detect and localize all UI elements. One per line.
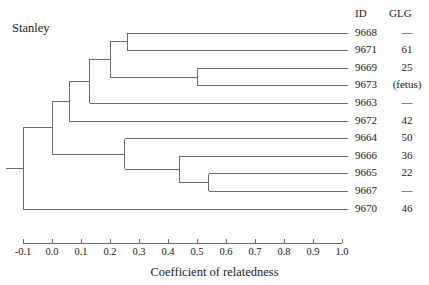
leaf-id-9667: 9667 bbox=[355, 185, 389, 196]
leaf-glg-9664: 50 bbox=[389, 132, 425, 143]
axis-tick-label-4: 0.3 bbox=[124, 247, 154, 258]
leaf-id-9666: 9666 bbox=[355, 150, 389, 161]
leaf-id-9673: 9673 bbox=[355, 79, 389, 90]
axis-tick-label-7: 0.6 bbox=[211, 247, 241, 258]
axis-tick-label-2: 0.1 bbox=[66, 247, 96, 258]
leaf-glg-9672: 42 bbox=[389, 115, 425, 126]
leaf-id-9663: 9663 bbox=[355, 97, 389, 108]
axis-tick-label-5: 0.4 bbox=[153, 247, 183, 258]
axis-tick-label-3: 0.2 bbox=[95, 247, 125, 258]
leaf-glg-9673: (fetus) bbox=[389, 79, 425, 90]
leaf-id-9672: 9672 bbox=[355, 115, 389, 126]
leaf-glg-9666: 36 bbox=[389, 150, 425, 161]
leaf-glg-9663: — bbox=[389, 97, 425, 108]
axis-tick-label-8: 0.7 bbox=[240, 247, 270, 258]
axis-tick-label-10: 0.9 bbox=[298, 247, 328, 258]
leaf-glg-9668: — bbox=[389, 27, 425, 38]
leaf-glg-9669: 25 bbox=[389, 62, 425, 73]
axis-tick-label-6: 0.5 bbox=[182, 247, 212, 258]
leaf-id-9669: 9669 bbox=[355, 62, 389, 73]
axis-tick-label-9: 0.8 bbox=[269, 247, 299, 258]
leaf-id-9671: 9671 bbox=[355, 44, 389, 55]
axis-tick-label-11: 1.0 bbox=[327, 247, 357, 258]
axis-tick-label-1: 0.0 bbox=[37, 247, 67, 258]
axis-tick-label-0: -0.1 bbox=[8, 247, 38, 258]
leaf-glg-9665: 22 bbox=[389, 167, 425, 178]
leaf-glg-9667: — bbox=[389, 185, 425, 196]
dendrogram-figure: Stanley ID GLG 9668—9671619669259673(fet… bbox=[0, 0, 429, 285]
axis-title: Coefficient of relatedness bbox=[0, 266, 429, 279]
leaf-id-9670: 9670 bbox=[355, 203, 389, 214]
leaf-glg-9670: 46 bbox=[389, 203, 425, 214]
leaf-glg-9671: 61 bbox=[389, 44, 425, 55]
leaf-id-9668: 9668 bbox=[355, 27, 389, 38]
leaf-id-9665: 9665 bbox=[355, 167, 389, 178]
leaf-id-9664: 9664 bbox=[355, 132, 389, 143]
